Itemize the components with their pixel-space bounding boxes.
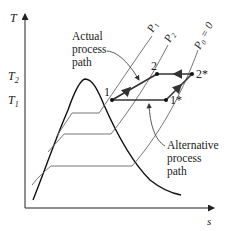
state-point-2s (190, 72, 194, 76)
svg-text:P1: P1 (144, 19, 162, 35)
t1-label: T1 (8, 93, 19, 109)
state-point-1 (110, 98, 114, 102)
t2-label: T2 (8, 69, 19, 85)
actual-path-1-2 (112, 74, 157, 100)
state-label-1s: 1* (170, 93, 182, 107)
svg-text:P2: P2 (161, 29, 179, 46)
state-point-1s (164, 98, 168, 102)
state-label-1: 1 (104, 85, 110, 99)
svg-text:P0 = 0: P0 = 0 (191, 20, 218, 53)
state-label-2s: 2* (196, 67, 208, 81)
actual-path-pointer (107, 51, 139, 80)
alternative-path-label: Alternative process path (167, 139, 222, 178)
t-s-diagram: T s T2 T1 P1 P2 P0 = 0 1 2 1* 2* Actual … (0, 0, 227, 231)
state-label-2: 2 (151, 59, 157, 73)
x-axis-label: s (207, 215, 211, 227)
isobar-p2-label: P2 (161, 29, 179, 46)
isobar-p0-label: P0 = 0 (191, 20, 218, 53)
y-axis-label: T (10, 11, 18, 25)
isobar-p1-label: P1 (144, 19, 162, 35)
actual-path-label: Actual process path (72, 30, 109, 69)
